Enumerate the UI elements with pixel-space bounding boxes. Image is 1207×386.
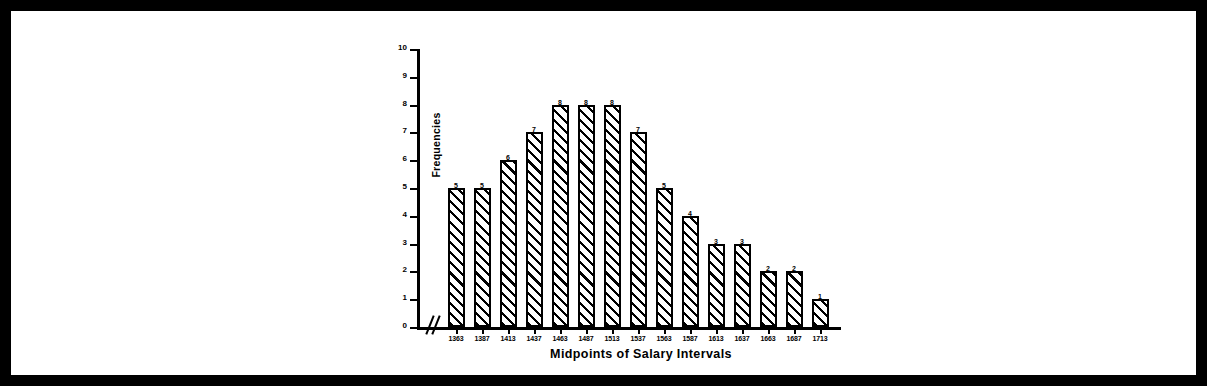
y-tick-label: 2 — [403, 265, 407, 274]
bar: 3 — [734, 244, 751, 327]
x-tick-label: 1687 — [787, 335, 802, 342]
x-tick-label: 1437 — [527, 335, 542, 342]
bar: 8 — [578, 105, 595, 327]
y-tick-label: 9 — [403, 71, 407, 80]
x-tick — [742, 327, 744, 334]
chart-plot-area: Frequencies 012345678910 556788875433221… — [11, 11, 1196, 375]
y-tick-label: 4 — [403, 210, 407, 219]
bar: 2 — [786, 271, 803, 327]
bar-value-label: 2 — [766, 265, 770, 272]
bar-value-label: 5 — [480, 182, 484, 189]
x-tick-label: 1613 — [709, 335, 724, 342]
y-tick: 2 — [410, 271, 417, 273]
bar: 3 — [708, 244, 725, 327]
bar: 4 — [682, 216, 699, 327]
bar-value-label: 8 — [610, 99, 614, 106]
bar: 5 — [448, 188, 465, 327]
bar: 5 — [474, 188, 491, 327]
x-tick — [638, 327, 640, 334]
bar-value-label: 6 — [506, 154, 510, 161]
x-tick-label: 1663 — [761, 335, 776, 342]
x-tick-label: 1413 — [501, 335, 516, 342]
y-tick: 10 — [410, 49, 417, 51]
y-tick-label: 3 — [403, 238, 407, 247]
x-tick-label: 1713 — [813, 335, 828, 342]
y-tick: 6 — [410, 160, 417, 162]
figure-border: Frequencies 012345678910 556788875433221… — [0, 0, 1207, 386]
bar-value-label: 7 — [532, 126, 536, 133]
x-tick — [664, 327, 666, 334]
y-tick-label: 10 — [398, 43, 407, 52]
x-tick-label: 1637 — [735, 335, 750, 342]
y-tick: 9 — [410, 77, 417, 79]
y-tick-label: 8 — [403, 99, 407, 108]
y-axis-title: Frequencies — [430, 80, 442, 210]
bar: 7 — [630, 132, 647, 327]
bar-value-label: 4 — [688, 210, 692, 217]
bar: 8 — [552, 105, 569, 327]
x-tick-label: 1513 — [605, 335, 620, 342]
bar-value-label: 8 — [558, 99, 562, 106]
bar-value-label: 7 — [636, 126, 640, 133]
y-tick: 0 — [410, 327, 417, 329]
x-tick — [820, 327, 822, 334]
x-tick — [768, 327, 770, 334]
x-tick-label: 1487 — [579, 335, 594, 342]
bar-value-label: 1 — [818, 293, 822, 300]
y-tick: 7 — [410, 132, 417, 134]
bar: 5 — [656, 188, 673, 327]
x-tick-label: 1387 — [475, 335, 490, 342]
y-tick: 1 — [410, 299, 417, 301]
x-tick — [690, 327, 692, 334]
x-tick-label: 1587 — [683, 335, 698, 342]
x-tick — [534, 327, 536, 334]
x-tick-label: 1563 — [657, 335, 672, 342]
x-axis-title: Midpoints of Salary Intervals — [441, 347, 841, 361]
x-tick — [716, 327, 718, 334]
x-tick — [612, 327, 614, 334]
x-tick — [794, 327, 796, 334]
bar-value-label: 5 — [454, 182, 458, 189]
x-tick-label: 1463 — [553, 335, 568, 342]
bar-value-label: 3 — [714, 238, 718, 245]
x-tick — [482, 327, 484, 334]
bar: 1 — [812, 299, 829, 327]
y-tick: 5 — [410, 188, 417, 190]
x-tick-label: 1363 — [449, 335, 464, 342]
y-axis-line — [417, 49, 420, 329]
y-tick-label: 6 — [403, 154, 407, 163]
y-tick-label: 5 — [403, 182, 407, 191]
y-tick: 4 — [410, 216, 417, 218]
bar-value-label: 3 — [740, 238, 744, 245]
y-tick-label: 7 — [403, 126, 407, 135]
axis-break-icon — [426, 314, 444, 336]
bar: 2 — [760, 271, 777, 327]
x-tick — [456, 327, 458, 334]
x-axis-line — [417, 327, 841, 330]
x-tick-label: 1537 — [631, 335, 646, 342]
y-tick: 3 — [410, 244, 417, 246]
bar-value-label: 2 — [792, 265, 796, 272]
bar: 8 — [604, 105, 621, 327]
bar: 6 — [500, 160, 517, 327]
bar-value-label: 5 — [662, 182, 666, 189]
y-tick-label: 0 — [403, 321, 407, 330]
x-tick — [508, 327, 510, 334]
x-tick — [560, 327, 562, 334]
y-tick: 8 — [410, 105, 417, 107]
y-tick-label: 1 — [403, 293, 407, 302]
x-tick — [586, 327, 588, 334]
bar: 7 — [526, 132, 543, 327]
bar-value-label: 8 — [584, 99, 588, 106]
